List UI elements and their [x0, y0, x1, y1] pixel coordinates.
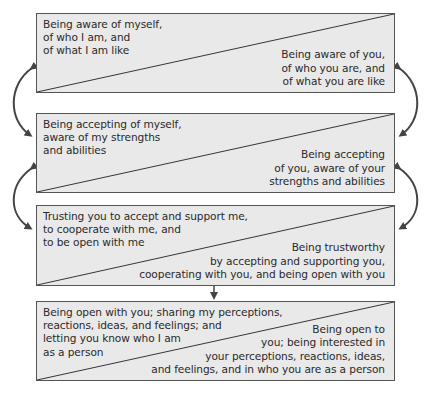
- other-text: Being aware of you, of who you are, and …: [281, 48, 385, 88]
- other-text: Being accepting of you, aware of your st…: [269, 148, 385, 188]
- self-text: Being accepting of myself, aware of my s…: [43, 118, 181, 158]
- right-bidirectional-arrow-1-2: [399, 68, 417, 135]
- box-trust: Trusting you to accept and support me, t…: [36, 205, 395, 286]
- box-self-awareness: Being aware of myself, of who I am, and …: [36, 13, 395, 93]
- box-openness: Being open with you; sharing my percepti…: [36, 301, 395, 381]
- other-text: Being open to you; being interested in y…: [151, 323, 385, 376]
- box-acceptance: Being accepting of myself, aware of my s…: [36, 113, 395, 193]
- other-text: Being trustworthy by accepting and suppo…: [139, 241, 385, 281]
- self-text: Being aware of myself, of who I am, and …: [43, 18, 162, 58]
- right-bidirectional-arrow-2-3: [399, 168, 417, 228]
- left-bidirectional-arrow-1-2: [14, 68, 32, 135]
- left-bidirectional-arrow-2-3: [14, 168, 32, 228]
